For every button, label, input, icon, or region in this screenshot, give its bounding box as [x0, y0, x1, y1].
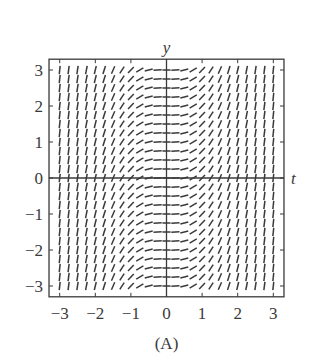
slope-segment	[111, 93, 114, 101]
slope-segment	[86, 138, 88, 146]
slope-segment	[209, 103, 213, 110]
slope-segment	[103, 138, 106, 146]
slope-segment	[111, 201, 114, 209]
slope-segment	[264, 273, 265, 281]
slope-segment	[218, 264, 221, 272]
slope-segment	[218, 84, 221, 92]
slope-segment	[120, 157, 124, 164]
slope-segment	[94, 273, 96, 281]
slope-segment	[86, 264, 88, 272]
slope-segment	[228, 75, 231, 83]
slope-segment	[171, 268, 179, 269]
slope-segment	[103, 237, 106, 245]
slope-segment	[86, 66, 88, 74]
slope-segment	[94, 129, 96, 137]
slope-segment	[68, 93, 69, 101]
slope-segment	[246, 138, 248, 146]
slope-segment	[209, 202, 213, 209]
slope-segment	[136, 275, 143, 279]
slope-segment	[218, 93, 221, 101]
slope-segment	[264, 264, 265, 272]
slope-segment	[273, 84, 274, 92]
slope-segment	[68, 183, 69, 191]
slope-segment	[199, 238, 205, 244]
slope-segment	[103, 219, 106, 227]
slope-segment	[273, 129, 274, 137]
slope-segment	[94, 192, 96, 200]
slope-segment	[154, 97, 162, 98]
slope-segment	[68, 192, 69, 200]
slope-segment	[273, 120, 274, 128]
slope-segment	[111, 255, 114, 263]
slope-segment	[86, 147, 88, 155]
slope-segment	[273, 66, 274, 74]
slope-segment	[273, 201, 274, 209]
slope-segment	[120, 193, 124, 200]
slope-segment	[209, 238, 213, 245]
slope-segment	[103, 66, 106, 74]
slope-segment	[120, 67, 124, 74]
slope-segment	[180, 213, 188, 215]
slope-segment	[136, 239, 143, 243]
slope-segment	[77, 75, 78, 83]
slope-segment	[246, 210, 248, 218]
slope-segment	[255, 201, 256, 209]
slope-segment	[111, 147, 114, 155]
slope-segment	[59, 75, 60, 83]
y-tick-label: 2	[35, 97, 44, 116]
slope-segment	[111, 138, 114, 146]
y-tick-label: 3	[35, 61, 44, 80]
slope-segment	[237, 66, 239, 74]
slope-segment	[68, 255, 69, 263]
slope-segment	[68, 120, 69, 128]
slope-segment	[190, 158, 197, 162]
x-tick-label: 1	[198, 304, 207, 323]
slope-segment	[111, 183, 114, 191]
slope-segment	[190, 185, 197, 189]
slope-segment	[190, 104, 197, 108]
slope-segment	[136, 266, 143, 270]
slope-segment	[154, 160, 162, 161]
slope-segment	[237, 156, 239, 164]
slope-segment	[246, 102, 248, 110]
slope-segment	[246, 129, 248, 137]
slope-segment	[255, 282, 256, 290]
slope-segment	[264, 129, 265, 137]
slope-segment	[154, 124, 162, 125]
slope-segment	[180, 96, 188, 98]
slope-segment	[154, 196, 162, 197]
slope-segment	[171, 79, 179, 80]
slope-segment	[237, 210, 239, 218]
slope-segment	[255, 228, 256, 236]
slope-segment	[145, 96, 153, 98]
slope-segment	[264, 192, 265, 200]
slope-segment	[218, 255, 221, 263]
slope-segment	[255, 84, 256, 92]
slope-segment	[111, 282, 114, 290]
slope-segment	[237, 201, 239, 209]
slope-segment	[154, 259, 162, 260]
slope-segment	[128, 184, 134, 190]
slope-segment	[136, 113, 143, 117]
slope-segment	[94, 210, 96, 218]
slope-segment	[120, 121, 124, 128]
slope-segment	[273, 273, 274, 281]
slope-segment	[120, 76, 124, 83]
x-tick-label: 0	[162, 304, 171, 323]
slope-segment	[180, 231, 188, 233]
slope-segment	[237, 183, 239, 191]
slope-segment	[154, 79, 162, 80]
slope-segment	[228, 282, 231, 290]
slope-segment	[190, 194, 197, 198]
slope-segment	[209, 166, 213, 173]
slope-segment	[273, 219, 274, 227]
slope-segment	[255, 111, 256, 119]
tick-labels: −3−2−10123−3−2−10123	[25, 61, 278, 323]
slope-segment	[128, 166, 134, 172]
slope-segment	[273, 246, 274, 254]
slope-segment	[94, 264, 96, 272]
slope-segment	[111, 237, 114, 245]
slope-segment	[218, 129, 221, 137]
slope-segment	[145, 249, 153, 251]
slope-segment	[120, 184, 124, 191]
